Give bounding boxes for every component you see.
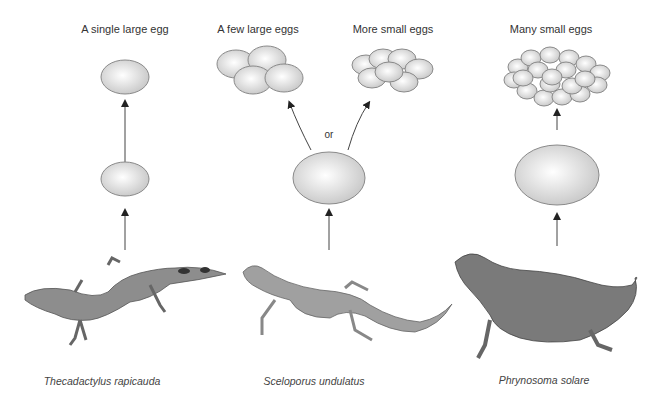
lizard-thecadactylus-image bbox=[25, 258, 226, 345]
egg-phrynosoma bbox=[515, 145, 599, 205]
egg-thecadactylus bbox=[101, 162, 149, 196]
species-label-phrynosoma: Phrynosoma solare bbox=[499, 374, 589, 386]
diagram-graphics bbox=[0, 0, 662, 413]
species-label-thecadactylus: Thecadactylus rapicauda bbox=[44, 375, 161, 387]
eggs-many-small bbox=[504, 47, 610, 106]
species-label-sceloporus: Sceloporus undulatus bbox=[264, 375, 365, 387]
egg-single-large-result bbox=[101, 60, 149, 94]
lizard-sceloporus-image bbox=[243, 266, 452, 340]
eggs-more-small bbox=[352, 49, 433, 92]
curved-arrow-left-icon bbox=[290, 104, 311, 150]
eggs-few-large bbox=[217, 46, 303, 94]
lizard-phrynosoma-image bbox=[455, 254, 637, 358]
curved-arrow-right-icon bbox=[348, 104, 368, 150]
egg-sceloporus bbox=[293, 152, 365, 204]
